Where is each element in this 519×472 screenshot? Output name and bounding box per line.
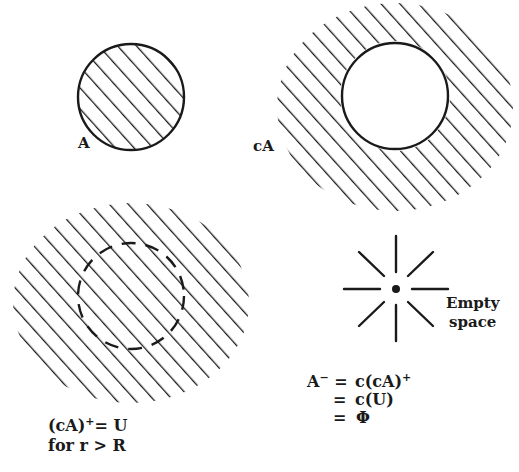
interior-lhs-base: A: [307, 372, 319, 391]
interior-eq3: =: [333, 410, 346, 426]
empty-space-label-line2: space: [449, 315, 496, 330]
interior-rhs-sup: +: [402, 371, 411, 384]
interior-rhs3: Φ: [356, 410, 370, 426]
interior-rhs-base: c(cA): [355, 372, 402, 391]
diagram-graphics: [0, 0, 519, 472]
diagram-canvas: A cA (cA)+= U for r > R Empty space A− =…: [0, 0, 519, 472]
interior-lhs-sup: −: [319, 371, 328, 384]
closure-eq-base: (cA): [48, 416, 85, 435]
closure-eq-rest: = U: [95, 416, 128, 435]
interior-eq2: =: [333, 392, 346, 408]
complement-a-label: cA: [253, 139, 274, 154]
set-a-label: A: [78, 136, 90, 151]
closure-equation-line2: for r > R: [48, 438, 126, 454]
interior-rhs1: c(cA)+: [355, 374, 411, 390]
closure-equation-line1: (cA)+= U: [48, 418, 127, 434]
interior-eq1: =: [334, 372, 347, 391]
closure-eq-sup: +: [85, 415, 94, 428]
complement-a-region: [270, 0, 519, 220]
interior-rhs2: c(U): [355, 392, 394, 408]
empty-space-label-line1: Empty: [446, 296, 499, 311]
starburst-point-icon: [344, 236, 448, 341]
interior-equation-line1: A− =: [307, 374, 348, 390]
closure-complement-region: [0, 195, 260, 410]
